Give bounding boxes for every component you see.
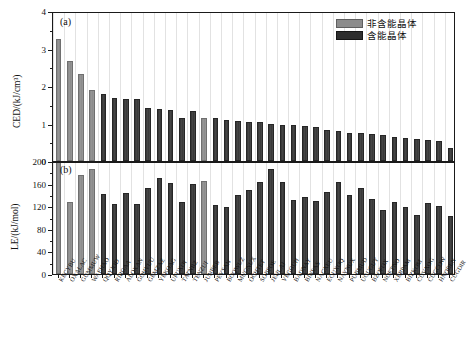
bar: [313, 127, 319, 162]
legend: 非含能晶体 含能晶体: [336, 19, 417, 40]
bar: [324, 130, 330, 161]
bar: [201, 118, 207, 161]
bar: [414, 139, 420, 161]
panel-a-tag: (a): [60, 16, 71, 27]
bar: [134, 99, 140, 161]
bar: [168, 110, 174, 161]
bar: [224, 120, 230, 161]
bar: [246, 122, 252, 161]
bar: [179, 118, 185, 162]
legend-item-non-energetic: 非含能晶体: [336, 19, 417, 29]
bar: [56, 39, 62, 161]
bar: [101, 94, 107, 161]
bar: [112, 98, 118, 161]
bar: [268, 124, 274, 161]
bar: [89, 90, 95, 161]
y-tick-mark: [48, 125, 52, 126]
y-minor-tick-mark: [50, 68, 53, 69]
bar: [157, 109, 163, 161]
bar: [78, 74, 84, 161]
y-tick-mark: [48, 50, 52, 51]
y-tick-label: 120: [16, 203, 46, 212]
bar: [56, 162, 62, 274]
y-minor-tick-mark: [50, 219, 53, 220]
panel-a-y-axis-title: CED/(kJ/cm³): [12, 74, 22, 128]
bar: [380, 135, 386, 161]
bar: [336, 131, 342, 161]
legend-swatch-dark-icon: [336, 31, 363, 40]
bar: [403, 138, 409, 161]
y-tick-label: 40: [16, 248, 46, 257]
bar: [369, 134, 375, 161]
bar: [67, 61, 73, 161]
bar: [302, 126, 308, 161]
bar: [257, 122, 263, 161]
bar: [213, 118, 219, 161]
y-tick-label: 0: [16, 271, 46, 280]
y-tick-mark: [48, 12, 52, 13]
y-tick-mark: [48, 185, 52, 186]
bar: [123, 99, 129, 161]
y-minor-tick-mark: [50, 106, 53, 107]
y-tick-label: 160: [16, 181, 46, 190]
bar: [358, 133, 364, 161]
y-tick-mark: [48, 207, 52, 208]
y-tick-label: 200: [16, 158, 46, 167]
y-tick-mark: [48, 275, 52, 276]
legend-item-energetic: 含能晶体: [336, 31, 417, 41]
y-tick-mark: [48, 252, 52, 253]
bar: [291, 125, 297, 161]
bar: [448, 148, 454, 161]
bar: [190, 111, 196, 161]
bar: [235, 121, 241, 161]
y-minor-tick-mark: [50, 241, 53, 242]
y-minor-tick-mark: [50, 196, 53, 197]
bar: [280, 125, 286, 161]
y-minor-tick-mark: [50, 143, 53, 144]
y-tick-mark: [48, 87, 52, 88]
panel-b-y-axis-title: LE/(kJ/mol): [10, 204, 20, 250]
bar: [145, 108, 151, 161]
y-tick-label: 4: [16, 8, 46, 17]
bar: [347, 133, 353, 162]
bar: [425, 140, 431, 161]
y-minor-tick-mark: [50, 264, 53, 265]
panel-b-tag: (b): [60, 164, 72, 175]
bar: [392, 137, 398, 161]
bar: [436, 141, 442, 161]
y-tick-mark: [48, 230, 52, 231]
legend-swatch-gray-icon: [336, 19, 363, 28]
y-tick-label: 3: [16, 46, 46, 55]
y-tick-label: 80: [16, 226, 46, 235]
panel-b-x-labels: KECYBUOXALACGUMMUWWAFHAOQQYJODRIRGAAALOX…: [52, 279, 455, 343]
legend-label-non-energetic: 非含能晶体: [367, 19, 417, 29]
y-minor-tick-mark: [50, 31, 53, 32]
y-minor-tick-mark: [50, 173, 53, 174]
y-tick-mark: [48, 162, 52, 163]
legend-label-energetic: 含能晶体: [367, 31, 407, 41]
